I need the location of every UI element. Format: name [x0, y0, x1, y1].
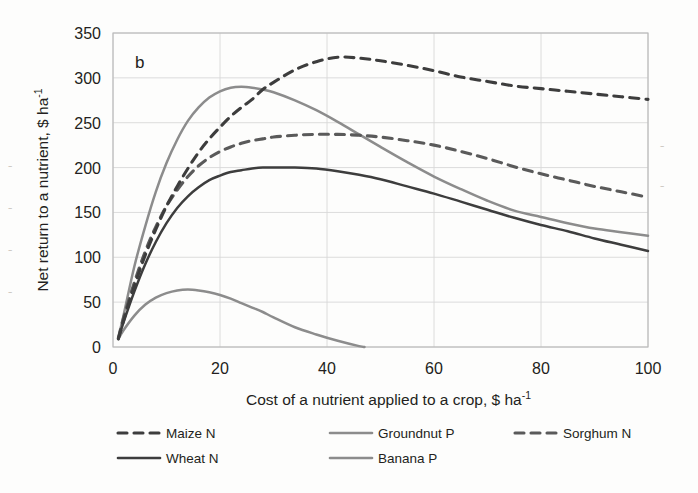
- y-axis-ticks: 050100150200250300350: [74, 25, 101, 356]
- legend-label: Wheat N: [166, 451, 219, 466]
- y-tick-label: 200: [74, 160, 101, 177]
- net-return-chart: ------ 020406080100 05010015020025030035…: [0, 0, 698, 493]
- legend-item-groundnut-p: Groundnut P: [330, 426, 455, 441]
- x-tick-label: 100: [635, 360, 662, 377]
- y-axis-title: Net return to a nutrient, $ ha-1: [32, 88, 51, 291]
- svg-text:-: -: [660, 178, 664, 193]
- series-curve-wheat-n: [118, 168, 648, 339]
- x-tick-label: 0: [109, 360, 118, 377]
- x-axis-ticks: 020406080100: [109, 360, 662, 377]
- y-tick-label: 100: [74, 249, 101, 266]
- y-tick-label: 50: [83, 294, 101, 311]
- x-tick-label: 40: [318, 360, 336, 377]
- legend-label: Sorghum N: [563, 426, 631, 441]
- legend-item-sorghum-n: Sorghum N: [515, 426, 631, 441]
- legend-item-maize-n: Maize N: [118, 426, 216, 441]
- x-tick-label: 60: [425, 360, 443, 377]
- series-curves: [118, 57, 648, 347]
- y-tick-label: 0: [92, 339, 101, 356]
- legend-label: Groundnut P: [378, 426, 455, 441]
- y-tick-label: 350: [74, 25, 101, 42]
- series-curve-sorghum-n: [118, 134, 648, 338]
- chart-legend: Maize NGroundnut PSorghum NWheat NBanana…: [118, 426, 631, 466]
- x-tick-label: 20: [211, 360, 229, 377]
- svg-text:-: -: [8, 242, 12, 257]
- svg-text:-: -: [8, 284, 12, 299]
- legend-label: Maize N: [166, 426, 216, 441]
- legend-item-banana-p: Banana P: [330, 451, 437, 466]
- y-tick-label: 150: [74, 204, 101, 221]
- x-axis-title: Cost of a nutrient applied to a crop, $ …: [246, 389, 531, 408]
- legend-item-wheat-n: Wheat N: [118, 451, 219, 466]
- legend-label: Banana P: [378, 451, 437, 466]
- panel-label: b: [135, 53, 144, 72]
- y-tick-label: 250: [74, 115, 101, 132]
- svg-text:-: -: [660, 138, 664, 153]
- svg-text:-: -: [8, 200, 12, 215]
- background-page-text: ------: [8, 138, 664, 299]
- svg-text:-: -: [8, 158, 12, 173]
- y-tick-label: 300: [74, 70, 101, 87]
- series-curve-banana-p: [118, 290, 364, 347]
- x-tick-label: 80: [532, 360, 550, 377]
- series-curve-maize-n: [118, 57, 648, 339]
